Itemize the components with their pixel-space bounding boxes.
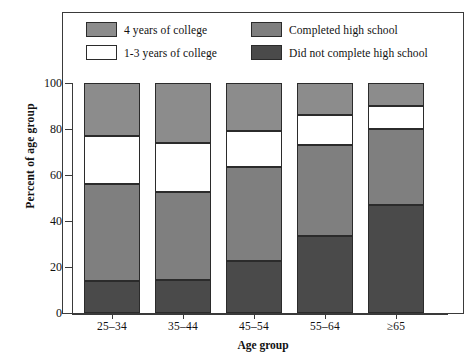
- bar-65[interactable]: [368, 83, 424, 313]
- bar-segment-completed-high-school[interactable]: [155, 192, 211, 279]
- bar-35-44[interactable]: [155, 83, 211, 313]
- bar-segment-4-years-of-college[interactable]: [155, 83, 211, 143]
- bar-segment-did-not-complete-high-school[interactable]: [84, 281, 140, 313]
- bar-25-34[interactable]: [84, 83, 140, 313]
- bar-segment-completed-high-school[interactable]: [368, 129, 424, 205]
- bar-45-54[interactable]: [226, 83, 282, 313]
- bar-segment-completed-high-school[interactable]: [84, 184, 140, 281]
- bar-segment-4-years-of-college[interactable]: [297, 83, 353, 115]
- bar-segment-completed-high-school[interactable]: [297, 145, 353, 236]
- bar-segment-1-3-years-of-college[interactable]: [226, 131, 282, 167]
- bar-segment-did-not-complete-high-school[interactable]: [155, 280, 211, 313]
- bar-segment-did-not-complete-high-school[interactable]: [297, 236, 353, 313]
- bar-segment-did-not-complete-high-school[interactable]: [226, 261, 282, 313]
- bars-layer: [0, 0, 476, 363]
- stacked-bar-chart: 4 years of college Completed high school…: [0, 0, 476, 363]
- bar-segment-did-not-complete-high-school[interactable]: [368, 205, 424, 313]
- bar-segment-1-3-years-of-college[interactable]: [368, 106, 424, 129]
- bar-segment-1-3-years-of-college[interactable]: [84, 136, 140, 184]
- bar-55-64[interactable]: [297, 83, 353, 313]
- bar-segment-1-3-years-of-college[interactable]: [155, 143, 211, 192]
- bar-segment-1-3-years-of-college[interactable]: [297, 115, 353, 145]
- bar-segment-4-years-of-college[interactable]: [84, 83, 140, 136]
- bar-segment-4-years-of-college[interactable]: [226, 83, 282, 131]
- bar-segment-4-years-of-college[interactable]: [368, 83, 424, 106]
- bar-segment-completed-high-school[interactable]: [226, 167, 282, 261]
